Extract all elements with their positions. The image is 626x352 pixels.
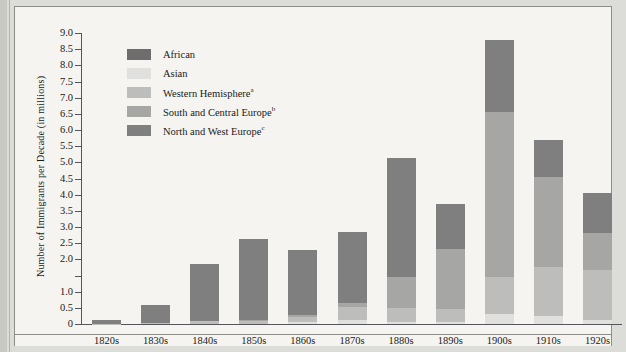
legend-label-north_west_europe: North and West Europec [163, 124, 265, 137]
x-axis-label-1860s: 1860s [290, 335, 315, 346]
bar-segment [141, 323, 170, 324]
y-tick-label: 4.0 [60, 189, 73, 200]
y-tick-label: 9.0 [60, 28, 73, 39]
bar-1880s [387, 158, 416, 324]
bar-1850s [239, 239, 268, 324]
x-axis-label-1850s: 1850s [241, 335, 266, 346]
figure-panel: Number of Immigrants per Decade (in mill… [14, 6, 612, 346]
legend-swatch-asian [127, 68, 151, 79]
bar-segment [534, 316, 563, 324]
y-tick-label: 3.0 [60, 222, 73, 233]
y-tick-mark [75, 211, 82, 212]
legend-item-asian: Asian [127, 64, 275, 83]
y-tick-label: 0.5 [60, 303, 73, 314]
bar-segment [387, 322, 416, 324]
bar-segment [583, 270, 612, 320]
legend-footnote-marker: c [261, 124, 264, 132]
bar-segment [141, 305, 170, 323]
x-axis-label-1910s: 1910s [536, 335, 561, 346]
chart-figure: Number of Immigrants per Decade (in mill… [41, 17, 626, 333]
y-tick-mark [75, 49, 82, 50]
bar-segment [387, 308, 416, 322]
legend-item-african: African [127, 45, 275, 64]
legend-item-western_hemisphere: Western Hemispherea [127, 83, 275, 102]
x-axis-label-1830s: 1830s [143, 335, 168, 346]
bar-segment [387, 277, 416, 308]
legend-swatch-south_central_europe [127, 106, 151, 117]
page-gutter-line [9, 0, 10, 352]
bar-1870s [338, 232, 367, 324]
bar-segment [583, 193, 612, 233]
y-tick-label: 3.5 [60, 206, 73, 217]
y-tick-mark [75, 98, 82, 99]
y-tick-mark [75, 114, 82, 115]
y-tick-mark [75, 227, 82, 228]
legend-swatch-western_hemisphere [127, 87, 151, 98]
bar-segment [288, 322, 317, 324]
bar-segment [534, 267, 563, 316]
legend-item-south_central_europe: South and Central Europeb [127, 102, 275, 121]
legend-item-north_west_europe: North and West Europec [127, 121, 275, 140]
legend-label-south_central_europe: South and Central Europeb [163, 105, 275, 118]
y-tick-label: 1.0 [60, 286, 73, 297]
x-axis-label-1870s: 1870s [339, 335, 364, 346]
y-tick-label: 2.5 [60, 238, 73, 249]
bar-segment [583, 233, 612, 270]
y-tick-mark [75, 259, 82, 260]
bar-segment [485, 277, 514, 314]
bar-1910s [534, 140, 563, 324]
bar-segment [338, 320, 367, 324]
bar-segment [338, 232, 367, 303]
bar-segment [387, 158, 416, 278]
bar-segment [485, 314, 514, 324]
bar-segment [436, 204, 465, 249]
y-tick-mark [75, 146, 82, 147]
x-axis-label-1890s: 1890s [438, 335, 463, 346]
y-tick-mark [75, 33, 82, 34]
page-gutter [0, 0, 7, 352]
y-tick-mark [75, 324, 82, 325]
y-tick-mark [75, 195, 82, 196]
y-tick-label: 5.5 [60, 141, 73, 152]
y-tick-label: 4.5 [60, 173, 73, 184]
bar-1900s [485, 40, 514, 325]
bar-segment [583, 320, 612, 324]
bar-1830s [141, 305, 170, 324]
y-tick-label: 0 [68, 319, 73, 330]
y-tick-mark [75, 292, 82, 293]
y-tick-label: 5.0 [60, 157, 73, 168]
y-tick-label: 6.0 [60, 125, 73, 136]
y-tick-mark [75, 130, 82, 131]
horizontal-rule [14, 334, 612, 335]
x-axis-label-1880s: 1880s [389, 335, 414, 346]
y-tick-mark [75, 162, 82, 163]
bar-segment [436, 322, 465, 324]
legend-footnote-marker: a [251, 86, 254, 94]
y-tick-label: 2.0 [60, 254, 73, 265]
x-axis-label-1820s: 1820s [94, 335, 119, 346]
legend-swatch-north_west_europe [127, 125, 151, 136]
x-axis-label-1840s: 1840s [192, 335, 217, 346]
bar-segment [534, 177, 563, 268]
y-tick-label: 8.0 [60, 60, 73, 71]
bar-segment [338, 307, 367, 320]
legend-swatch-african [127, 49, 151, 60]
chart-legend: AfricanAsianWestern HemisphereaSouth and… [127, 45, 275, 140]
bar-segment [288, 250, 317, 316]
y-tick-mark [75, 179, 82, 180]
bar-segment [534, 140, 563, 177]
y-tick-mark [75, 243, 82, 244]
y-tick-mark [75, 308, 82, 309]
y-tick-label: 6.5 [60, 109, 73, 120]
bar-segment [436, 249, 465, 309]
y-axis-title-text: Number of Immigrants per Decade (in mill… [35, 77, 46, 277]
y-tick-mark [75, 82, 82, 83]
y-tick-label: 7.0 [60, 92, 73, 103]
bar-segment [485, 112, 514, 277]
bar-segment [190, 321, 219, 324]
bar-1840s [190, 264, 219, 324]
y-axis-title: Number of Immigrants per Decade (in mill… [35, 0, 46, 77]
bar-segment [190, 264, 219, 322]
bar-1820s [92, 320, 121, 324]
